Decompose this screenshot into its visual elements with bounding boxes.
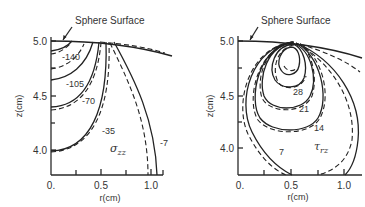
right-label-28: 28 (293, 87, 303, 97)
left-label-7: -7 (160, 138, 168, 148)
right-xtick-0.5: 0.5 (284, 180, 298, 191)
left-xtick-1.0: 1.0 (144, 180, 158, 191)
left-label-35: -35 (102, 126, 115, 136)
right-label-7: 7 (279, 147, 284, 157)
figure: 5.0 4.5 4.0 0. 0.5 1.0 r(cm) z(cm) Spher… (0, 0, 365, 207)
left-sphere-surface-annotation: Sphere Surface (75, 15, 145, 26)
right-chart-tau-rz: 5.0 4.5 4.0 0. 0.5 1.0 r(cm) z(cm) Spher… (205, 15, 362, 202)
right-ytick-5.0: 5.0 (220, 36, 234, 47)
left-ytick-4.5: 4.5 (33, 91, 47, 102)
left-contour-7-dashed (110, 43, 148, 175)
right-y-axis-title: z(cm) (205, 95, 215, 118)
left-quantity-symbol: σzz (110, 142, 127, 157)
left-ytick-5.0: 5.0 (33, 36, 47, 47)
left-label-140: -140 (62, 52, 80, 62)
right-contour-21-solid (262, 43, 313, 108)
right-xtick-1.0: 1.0 (337, 180, 351, 191)
left-ytick-4.0: 4.0 (33, 145, 47, 156)
left-y-ticks (51, 41, 56, 150)
left-chart-sigma-zz: 5.0 4.5 4.0 0. 0.5 1.0 r(cm) z(cm) Spher… (14, 15, 172, 203)
right-contour-28-inner-solid (279, 47, 300, 75)
right-quantity-symbol: τrz (314, 140, 329, 155)
right-ytick-4.0: 4.0 (220, 143, 234, 154)
left-xtick-0: 0. (47, 180, 55, 191)
right-label-14: 14 (314, 123, 324, 133)
left-x-ticks (76, 169, 163, 175)
right-label-21: 21 (299, 104, 309, 114)
left-x-axis-title: r(cm) (100, 193, 121, 203)
left-xtick-0.5: 0.5 (94, 180, 108, 191)
left-y-axis-title: z(cm) (14, 95, 24, 118)
right-xtick-0: 0. (236, 180, 244, 191)
left-label-105: -105 (66, 79, 84, 89)
right-y-ticks (238, 41, 243, 148)
right-x-axis-title: r(cm) (288, 192, 309, 202)
left-contour-140-solid (51, 41, 72, 51)
right-contour-28-inner-dashed (284, 66, 297, 71)
right-sphere-surface-annotation: Sphere Surface (261, 15, 331, 26)
right-ytick-4.5: 4.5 (220, 91, 234, 102)
left-label-70: -70 (82, 96, 95, 106)
